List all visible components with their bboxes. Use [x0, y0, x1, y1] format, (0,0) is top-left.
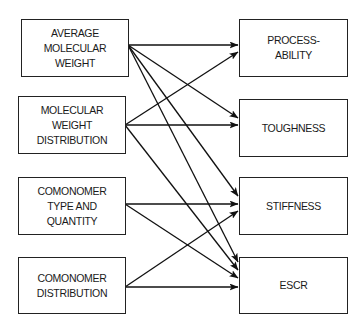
arrow-avg-mw-to-escr	[128, 45, 238, 262]
input-label: COMONOMER DISTRIBUTION	[37, 271, 108, 301]
input-box-comonomer-distribution: COMONOMER DISTRIBUTION	[18, 257, 126, 314]
arrow-avg-mw-to-toughness	[128, 45, 238, 118]
output-box-escr: ESCR	[239, 257, 348, 314]
input-label: AVERAGE MOLECULAR WEIGHT	[44, 26, 107, 71]
arrow-mwd-to-processability	[125, 52, 238, 125]
arrow-avg-mw-to-stiffness	[128, 45, 238, 196]
output-box-stiffness: STIFFNESS	[239, 177, 348, 235]
output-box-processability: PROCESS- ABILITY	[239, 19, 348, 77]
input-label: COMONOMER TYPE AND QUANTITY	[37, 184, 106, 229]
input-box-comonomer-type-and-quantity: COMONOMER TYPE AND QUANTITY	[18, 177, 126, 235]
output-label: STIFFNESS	[266, 199, 321, 214]
input-box-molecular-weight-distribution: MOLECULAR WEIGHT DISTRIBUTION	[18, 96, 126, 154]
output-box-toughness: TOUGHNESS	[239, 99, 348, 157]
arrow-comonomer-type-to-escr	[125, 204, 238, 278]
input-label: MOLECULAR WEIGHT DISTRIBUTION	[37, 103, 108, 148]
output-label: ESCR	[280, 278, 308, 293]
input-box-average-molecular-weight: AVERAGE MOLECULAR WEIGHT	[21, 19, 129, 77]
output-label: TOUGHNESS	[262, 121, 326, 136]
output-label: PROCESS- ABILITY	[267, 33, 319, 63]
